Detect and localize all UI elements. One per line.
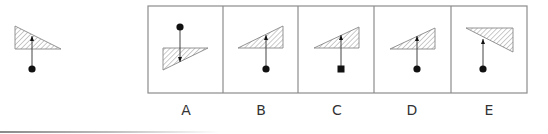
option-d-shape bbox=[390, 28, 435, 73]
option-label-c[interactable]: C bbox=[299, 100, 375, 120]
options-figures bbox=[163, 23, 513, 72]
hatched-triangle bbox=[238, 26, 283, 48]
option-c-shape bbox=[314, 27, 359, 73]
option-e-shape bbox=[466, 28, 513, 73]
reference-shape bbox=[15, 26, 61, 73]
option-label-b[interactable]: B bbox=[223, 100, 299, 120]
option-label-d[interactable]: D bbox=[374, 100, 450, 120]
hatched-triangle bbox=[163, 48, 208, 70]
bottom-divider bbox=[0, 131, 220, 133]
option-b-shape bbox=[238, 26, 283, 73]
hatched-triangle bbox=[314, 27, 359, 48]
reference-figure bbox=[15, 26, 61, 73]
hatched-triangle bbox=[390, 28, 435, 49]
arrow-up-icon bbox=[481, 39, 485, 44]
circle-marker-icon bbox=[413, 65, 420, 72]
hatched-triangle bbox=[15, 26, 61, 49]
square-marker-icon bbox=[338, 66, 345, 73]
hatched-triangle bbox=[466, 28, 513, 52]
circle-marker-icon bbox=[28, 65, 35, 72]
option-a-shape bbox=[163, 23, 208, 70]
circle-marker-icon bbox=[479, 65, 486, 72]
circle-marker-icon bbox=[262, 65, 269, 72]
option-label-a[interactable]: A bbox=[148, 100, 224, 120]
circle-marker-icon bbox=[176, 23, 183, 30]
option-label-e[interactable]: E bbox=[451, 100, 527, 120]
